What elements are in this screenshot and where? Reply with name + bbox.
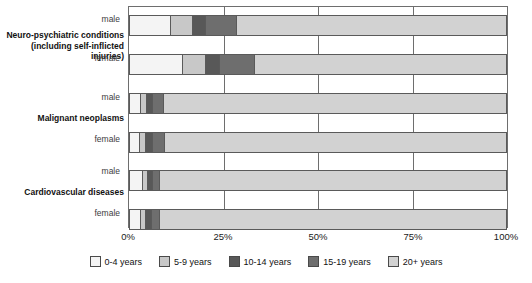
bar-segment[interactable] xyxy=(152,209,160,230)
legend-item[interactable]: 20+ years xyxy=(388,256,443,267)
legend-swatch-icon xyxy=(308,256,319,267)
bar-row[interactable] xyxy=(129,132,507,153)
bar-segment[interactable] xyxy=(164,93,507,114)
legend-label: 10-14 years xyxy=(244,257,292,267)
gridline-50 xyxy=(318,7,319,227)
xtick-label-0: 0% xyxy=(121,231,135,242)
bar-segment[interactable] xyxy=(160,170,507,191)
bar-segment[interactable] xyxy=(153,93,164,114)
bar-segment[interactable] xyxy=(129,209,141,230)
xtick-label-50: 50% xyxy=(308,231,327,242)
chart-legend: 0-4 years5-9 years10-14 years15-19 years… xyxy=(0,256,532,267)
bar-segment[interactable] xyxy=(146,132,153,153)
bar-label-neuro-female: female xyxy=(0,53,120,63)
gridline-75 xyxy=(413,7,414,227)
bar-label-malignant-male: male xyxy=(0,92,120,102)
bar-row[interactable] xyxy=(129,54,507,75)
xtick-label-75: 75% xyxy=(403,231,422,242)
bar-label-cardio-male: male xyxy=(0,166,120,176)
legend-label: 5-9 years xyxy=(174,257,212,267)
legend-item[interactable]: 15-19 years xyxy=(308,256,371,267)
bar-row[interactable] xyxy=(129,170,507,191)
bar-segment[interactable] xyxy=(171,15,193,36)
bar-segment[interactable] xyxy=(237,15,507,36)
bar-segment[interactable] xyxy=(165,132,507,153)
legend-item[interactable]: 10-14 years xyxy=(229,256,292,267)
legend-label: 0-4 years xyxy=(105,257,143,267)
bar-segment[interactable] xyxy=(255,54,507,75)
category-label-neuro-line1: Neuro-psychiatric conditions xyxy=(0,30,124,41)
xtick-label-25: 25% xyxy=(213,231,232,242)
bar-row[interactable] xyxy=(129,15,507,36)
legend-swatch-icon xyxy=(90,256,101,267)
stacked-bar-chart: male Neuro-psychiatric conditions (inclu… xyxy=(0,0,532,283)
bar-segment[interactable] xyxy=(220,54,255,75)
legend-label: 15-19 years xyxy=(323,257,371,267)
gridline-25 xyxy=(224,7,225,227)
legend-label: 20+ years xyxy=(403,257,443,267)
legend-item[interactable]: 5-9 years xyxy=(159,256,212,267)
bar-label-neuro-male: male xyxy=(0,14,120,24)
bar-segment[interactable] xyxy=(160,209,507,230)
bar-segment[interactable] xyxy=(129,170,143,191)
plot-area xyxy=(128,6,508,228)
legend-swatch-icon xyxy=(159,256,170,267)
bar-label-cardio-female: female xyxy=(0,208,120,218)
bar-label-malignant-female: female xyxy=(0,134,120,144)
bar-segment[interactable] xyxy=(129,132,140,153)
category-label-cardiovascular-diseases: Cardiovascular diseases xyxy=(0,187,124,198)
bar-row[interactable] xyxy=(129,209,507,230)
bar-segment[interactable] xyxy=(129,15,171,36)
bar-segment[interactable] xyxy=(153,132,165,153)
bar-segment[interactable] xyxy=(129,54,183,75)
legend-swatch-icon xyxy=(388,256,399,267)
category-label-malignant-neoplasms: Malignant neoplasms xyxy=(0,113,124,124)
legend-item[interactable]: 0-4 years xyxy=(90,256,143,267)
bar-segment[interactable] xyxy=(193,15,207,36)
bar-segment[interactable] xyxy=(183,54,206,75)
bar-segment[interactable] xyxy=(206,54,221,75)
bar-segment[interactable] xyxy=(153,170,160,191)
bar-segment[interactable] xyxy=(206,15,237,36)
legend-swatch-icon xyxy=(229,256,240,267)
bar-row[interactable] xyxy=(129,93,507,114)
xtick-label-100: 100% xyxy=(494,231,518,242)
bar-segment[interactable] xyxy=(129,93,141,114)
